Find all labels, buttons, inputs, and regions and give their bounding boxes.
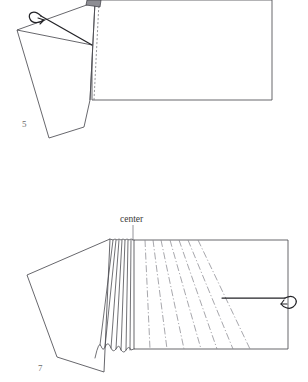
diagram-sheet: 5 (0, 0, 308, 382)
diagram-canvas: 5 (0, 0, 308, 382)
figure-5-main-sheet (92, 0, 272, 100)
figure-7-number: 7 (38, 363, 43, 373)
center-callout-label: center (120, 214, 144, 224)
figure-5-number: 5 (22, 119, 27, 129)
